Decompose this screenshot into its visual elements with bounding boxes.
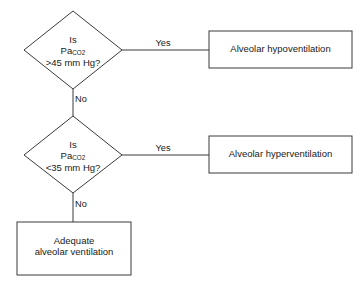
decision-node-1-line-3: >45 mm Hg? [23,57,123,68]
edge-label-decision-1-no: No [75,94,97,105]
decision-node-2-line-2-subscript: CO2 [72,155,85,162]
outcome-hypoventilation-label: Alveolar hypoventilation [209,43,352,54]
outcome-hypoventilation-line-1: Alveolar hypoventilation [209,43,352,54]
decision-node-1-line-1: Is [23,34,123,45]
decision-node-2-line-3: <35 mm Hg? [23,162,123,173]
edge-label-decision-2-yes: Yes [146,143,180,154]
edge-label-decision-2-no: No [75,199,97,210]
outcome-adequate-line-1: Adequate [17,235,131,246]
decision-node-2-line-2-prefix: Pa [61,150,73,161]
decision-node-1-line-2-prefix: Pa [61,45,73,56]
decision-node-2-line-2: PaCO2 [23,150,123,162]
outcome-hyperventilation-line-1: Alveolar hyperventilation [209,148,352,159]
edge-label-decision-1-yes: Yes [146,38,180,49]
outcome-adequate-line-2: alveolar ventilation [17,246,131,257]
decision-node-1-line-2-subscript: CO2 [72,50,85,57]
outcome-hyperventilation-label: Alveolar hyperventilation [209,148,352,159]
decision-node-1-label: Is PaCO2 >45 mm Hg? [23,34,123,68]
decision-node-1-line-2: PaCO2 [23,45,123,57]
decision-node-2-label: Is PaCO2 <35 mm Hg? [23,139,123,173]
outcome-adequate-label: Adequate alveolar ventilation [17,235,131,257]
flowchart-diagram: Is PaCO2 >45 mm Hg? Is PaCO2 <35 mm Hg? … [0,0,360,288]
decision-node-2-line-1: Is [23,139,123,150]
